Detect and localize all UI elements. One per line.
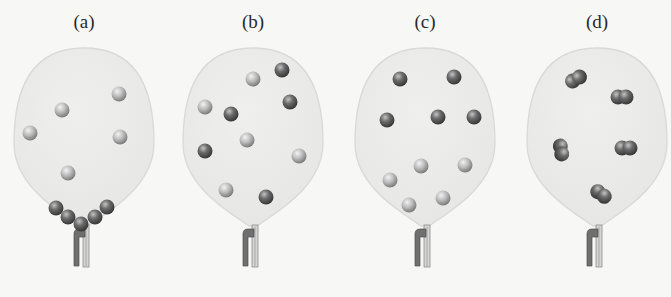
balloon-icon: [527, 48, 667, 226]
dark-atom: [393, 72, 408, 87]
dark-atom: [431, 110, 446, 125]
light-atom: [112, 87, 127, 102]
light-atom: [219, 183, 234, 198]
dark-atom: [380, 113, 395, 128]
diatomic-molecule: [615, 141, 638, 156]
light-atom: [240, 133, 255, 148]
light-atom: [414, 159, 429, 174]
balloon-figure: (a) (b) (c) (d): [0, 0, 671, 297]
dark-atom: [467, 110, 482, 125]
light-atom: [113, 130, 128, 145]
light-atom: [458, 158, 473, 173]
light-atom: [198, 100, 213, 115]
dark-atom: [100, 200, 115, 215]
balloon-icon: [355, 48, 495, 226]
light-atom: [402, 198, 417, 213]
dark-atom: [259, 190, 274, 205]
balloon-panel-d: [527, 48, 667, 267]
dark-atom: [88, 210, 103, 225]
light-atom: [383, 173, 398, 188]
dark-atom: [61, 210, 76, 225]
dark-atom: [198, 144, 213, 159]
dark-atom: [275, 63, 290, 78]
diagram-canvas: [0, 0, 671, 297]
balloon-panel-a: [14, 48, 154, 267]
light-atom: [23, 126, 38, 141]
dark-atom: [447, 70, 462, 85]
dark-atom: [224, 107, 239, 122]
balloon-panel-c: [355, 48, 495, 267]
molecule-atom: [623, 141, 638, 156]
diatomic-molecule: [611, 90, 634, 105]
light-atom: [61, 166, 76, 181]
molecule-atom: [619, 90, 634, 105]
dark-atom: [49, 201, 64, 216]
light-atom: [246, 72, 261, 87]
light-atom: [55, 103, 70, 118]
light-atom: [292, 149, 307, 164]
light-atom: [436, 191, 451, 206]
dark-atom: [283, 95, 298, 110]
dark-atom: [74, 217, 89, 232]
